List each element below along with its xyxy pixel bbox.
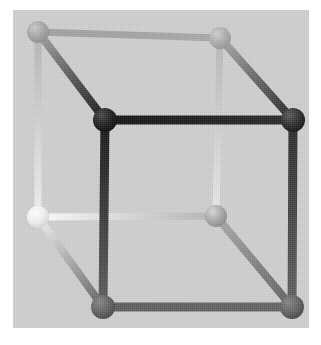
vertex-front-bottom-left — [91, 295, 115, 319]
vertex-front-bottom-right — [280, 295, 304, 319]
edge-depth-top-right — [220, 38, 293, 120]
vertex-back-top-left — [27, 21, 49, 43]
cube-diagram — [13, 10, 309, 328]
edge-front-right-vertical — [292, 120, 293, 307]
edge-back-bottom — [38, 216, 216, 217]
edge-back-top — [38, 32, 220, 38]
edge-back-right-vertical — [216, 38, 220, 216]
vertex-back-top-right — [209, 27, 231, 49]
edge-depth-top-left — [38, 32, 105, 120]
edge-depth-bottom-left — [38, 217, 103, 307]
vertex-back-bottom-right — [205, 205, 227, 227]
edge-depth-bottom-right — [216, 216, 292, 307]
edge-front-left-vertical — [103, 120, 105, 307]
vertex-back-bottom-left — [27, 206, 49, 228]
figure-canvas — [0, 0, 321, 345]
diagram-panel — [13, 10, 309, 328]
vertex-front-top-left — [93, 108, 117, 132]
vertex-front-top-right — [281, 108, 305, 132]
edges-layer — [38, 32, 293, 307]
